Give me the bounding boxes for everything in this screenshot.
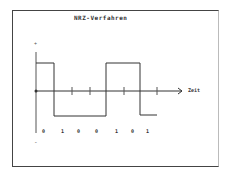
origin-dot xyxy=(35,90,38,93)
bit-label: 1 xyxy=(115,128,118,134)
y-plus-label: + xyxy=(34,40,37,46)
bit-label: 1 xyxy=(146,128,149,134)
bit-label: 0 xyxy=(95,128,98,134)
bit-label: 0 xyxy=(77,128,80,134)
nrz-signal-line xyxy=(36,63,157,116)
bit-label: 0 xyxy=(131,128,134,134)
x-axis-label: Zeit xyxy=(188,87,200,93)
bit-label: 1 xyxy=(61,128,64,134)
bit-label: 0 xyxy=(42,128,45,134)
y-minus-label: - xyxy=(34,138,38,145)
